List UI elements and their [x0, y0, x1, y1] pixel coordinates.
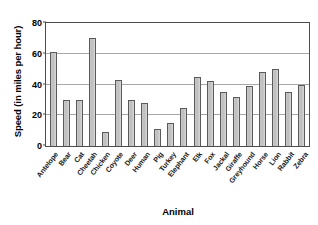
- bar: [50, 52, 57, 146]
- x-tick-slot: Deer: [125, 148, 138, 204]
- bar: [272, 69, 279, 146]
- y-axis-tick-label: 80: [32, 18, 42, 28]
- x-tick-slot: Rabbit: [283, 148, 296, 204]
- bar-slot: [217, 23, 230, 146]
- bar: [76, 100, 83, 146]
- bar: [115, 80, 122, 146]
- bar-chart: Speed (in miles per hour) 020406080 Ante…: [0, 0, 318, 225]
- x-tick-slot: Zebra: [296, 148, 309, 204]
- bar: [102, 132, 109, 146]
- bar-slot: [47, 23, 60, 146]
- x-axis-tick-label: Bear: [56, 150, 73, 168]
- bar: [285, 92, 292, 146]
- x-tick-slot: Elk: [191, 148, 204, 204]
- x-tick-slot: Greyhound: [243, 148, 256, 204]
- x-tick-slot: Human: [138, 148, 151, 204]
- bar: [207, 81, 214, 146]
- bar-slot: [151, 23, 164, 146]
- bar-slot: [177, 23, 190, 146]
- bar: [180, 108, 187, 146]
- bar-slot: [125, 23, 138, 146]
- y-axis-tick-label: 20: [32, 110, 42, 120]
- x-tick-slot: Coyote: [112, 148, 125, 204]
- y-axis-tick-label: 60: [32, 49, 42, 59]
- x-tick-slot: Cheetah: [85, 148, 98, 204]
- bar-slot: [282, 23, 295, 146]
- y-axis-tick-label: 0: [37, 141, 42, 151]
- bar-series: [46, 23, 309, 146]
- bar: [259, 72, 266, 146]
- bar-slot: [164, 23, 177, 146]
- bar-slot: [191, 23, 204, 146]
- bar-slot: [269, 23, 282, 146]
- bar-slot: [256, 23, 269, 146]
- bar-slot: [73, 23, 86, 146]
- bar-slot: [243, 23, 256, 146]
- x-tick-slot: Fox: [204, 148, 217, 204]
- x-tick-slot: Antelope: [46, 148, 59, 204]
- x-tick-slot: Cat: [72, 148, 85, 204]
- y-axis-tick-label: 40: [32, 80, 42, 90]
- x-axis-tick-label: Antelope: [34, 150, 60, 179]
- bar: [233, 97, 240, 146]
- bar: [194, 77, 201, 146]
- x-axis-tick-labels: AntelopeBearCatCheetahChickenCoyoteDeerH…: [45, 148, 310, 204]
- x-tick-slot: Lion: [270, 148, 283, 204]
- bar: [63, 100, 70, 146]
- bar: [128, 100, 135, 146]
- x-tick-slot: Elephant: [178, 148, 191, 204]
- bar: [246, 86, 253, 146]
- plot-area: 020406080: [45, 22, 310, 147]
- bar: [141, 103, 148, 146]
- bar-slot: [99, 23, 112, 146]
- x-axis-tick-label: Elk: [191, 150, 205, 164]
- bar-slot: [60, 23, 73, 146]
- bar: [89, 38, 96, 146]
- bar-slot: [112, 23, 125, 146]
- x-tick-slot: Pig: [151, 148, 164, 204]
- x-axis-title: Animal: [44, 206, 312, 217]
- bar-slot: [230, 23, 243, 146]
- x-tick-slot: Chicken: [99, 148, 112, 204]
- bar-slot: [204, 23, 217, 146]
- y-axis-title: Speed (in miles per hour): [12, 12, 23, 152]
- bar-slot: [295, 23, 308, 146]
- bar: [154, 129, 161, 146]
- bar: [220, 92, 227, 146]
- x-tick-slot: Bear: [59, 148, 72, 204]
- x-tick-slot: Horse: [257, 148, 270, 204]
- bar-slot: [138, 23, 151, 146]
- bar: [298, 85, 305, 147]
- bar-slot: [86, 23, 99, 146]
- bar: [167, 123, 174, 146]
